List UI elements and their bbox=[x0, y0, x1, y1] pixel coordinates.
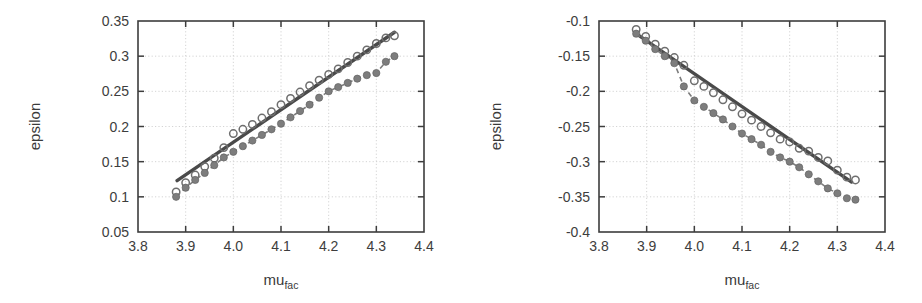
x-tick-label: 4.2 bbox=[319, 238, 339, 254]
y-tick-label: 0.05 bbox=[102, 224, 129, 240]
x-tick-label: 4.0 bbox=[685, 238, 705, 254]
data-point bbox=[363, 72, 370, 79]
data-point bbox=[306, 101, 313, 108]
data-point bbox=[786, 158, 793, 165]
y-tick-label: -0.1 bbox=[566, 13, 590, 29]
data-point bbox=[729, 103, 736, 110]
data-point bbox=[834, 190, 841, 197]
data-point bbox=[852, 176, 859, 183]
data-point bbox=[382, 58, 389, 65]
data-point bbox=[700, 83, 707, 90]
data-point bbox=[296, 107, 303, 114]
data-point bbox=[815, 178, 822, 185]
axis-ticks: 3.83.94.04.14.24.34.40.050.10.150.20.250… bbox=[102, 13, 434, 254]
series-linear-fit bbox=[177, 32, 394, 180]
y-tick-label: -0.4 bbox=[566, 224, 590, 240]
data-point bbox=[776, 135, 783, 142]
x-axis-title: mufac bbox=[725, 271, 760, 291]
data-point bbox=[277, 120, 284, 127]
x-tick-label: 3.8 bbox=[128, 238, 148, 254]
data-point bbox=[287, 95, 294, 102]
data-point bbox=[642, 37, 649, 44]
plot-svg-right: 3.83.94.04.14.24.34.4-0.4-0.35-0.3-0.25-… bbox=[461, 0, 922, 303]
data-point bbox=[748, 136, 755, 143]
data-point bbox=[748, 116, 755, 123]
figure-root: 3.83.94.04.14.24.34.40.050.10.150.20.250… bbox=[0, 0, 922, 303]
data-point bbox=[230, 148, 237, 155]
data-point bbox=[296, 88, 303, 95]
x-axis-title: mufac bbox=[264, 271, 299, 291]
y-tick-label: -0.3 bbox=[566, 154, 590, 170]
y-tick-label: 0.3 bbox=[110, 48, 130, 64]
data-point bbox=[719, 96, 726, 103]
data-point bbox=[316, 94, 323, 101]
x-tick-label: 4.3 bbox=[367, 238, 387, 254]
data-point bbox=[757, 123, 764, 130]
data-point bbox=[757, 141, 764, 148]
series-open-circles bbox=[632, 26, 859, 184]
data-point bbox=[201, 169, 208, 176]
x-tick-label: 3.9 bbox=[637, 238, 657, 254]
data-point bbox=[671, 60, 678, 67]
chart-panel-left: 3.83.94.04.14.24.34.40.050.10.150.20.250… bbox=[0, 0, 461, 303]
data-point bbox=[852, 196, 859, 203]
chart-panel-right: 3.83.94.04.14.24.34.4-0.4-0.35-0.3-0.25-… bbox=[461, 0, 922, 303]
y-tick-label: -0.25 bbox=[558, 119, 590, 135]
data-point bbox=[843, 195, 850, 202]
data-point bbox=[738, 130, 745, 137]
x-axis-title-base: mu bbox=[264, 271, 285, 288]
y-axis-title: epsilon bbox=[487, 103, 504, 151]
data-point bbox=[220, 154, 227, 161]
y-tick-label: 0.2 bbox=[110, 119, 130, 135]
y-tick-label: -0.15 bbox=[558, 48, 590, 64]
data-point bbox=[767, 129, 774, 136]
data-point bbox=[239, 143, 246, 150]
data-point bbox=[277, 101, 284, 108]
y-tick-label: 0.35 bbox=[102, 13, 129, 29]
data-point bbox=[777, 154, 784, 161]
data-point bbox=[373, 69, 380, 76]
y-tick-label: 0.1 bbox=[110, 189, 130, 205]
x-tick-label: 4.4 bbox=[875, 238, 895, 254]
data-point bbox=[805, 171, 812, 178]
axis-ticks: 3.83.94.04.14.24.34.4-0.4-0.35-0.3-0.25-… bbox=[558, 13, 895, 254]
data-point bbox=[710, 110, 717, 117]
x-tick-label: 3.8 bbox=[589, 238, 609, 254]
data-point bbox=[258, 131, 265, 138]
x-tick-label: 3.9 bbox=[176, 238, 196, 254]
data-point bbox=[824, 157, 831, 164]
data-point bbox=[325, 88, 332, 95]
data-point bbox=[824, 185, 831, 192]
x-tick-label: 4.1 bbox=[732, 238, 752, 254]
data-point bbox=[796, 164, 803, 171]
x-tick-label: 4.1 bbox=[271, 238, 291, 254]
data-point bbox=[258, 114, 265, 121]
data-point bbox=[661, 53, 668, 60]
data-point bbox=[691, 97, 698, 104]
data-point bbox=[287, 114, 294, 121]
y-tick-label: -0.2 bbox=[566, 83, 590, 99]
data-point bbox=[249, 137, 256, 144]
data-point bbox=[719, 116, 726, 123]
x-tick-label: 4.2 bbox=[780, 238, 800, 254]
y-tick-label: 0.25 bbox=[102, 83, 129, 99]
data-point bbox=[268, 126, 275, 133]
data-point bbox=[700, 103, 707, 110]
data-point bbox=[729, 123, 736, 130]
data-point bbox=[192, 176, 199, 183]
data-point bbox=[344, 79, 351, 86]
x-tick-label: 4.4 bbox=[414, 238, 434, 254]
x-axis-title-subscript: fac bbox=[284, 279, 298, 291]
data-point bbox=[173, 193, 180, 200]
data-point bbox=[767, 148, 774, 155]
data-point bbox=[652, 46, 659, 53]
data-point bbox=[391, 53, 398, 60]
y-tick-label: -0.35 bbox=[558, 189, 590, 205]
data-point bbox=[239, 126, 246, 133]
y-axis-title: epsilon bbox=[26, 103, 43, 151]
x-axis-title-subscript: fac bbox=[745, 279, 759, 291]
data-point bbox=[354, 75, 361, 82]
data-point bbox=[182, 184, 189, 191]
x-axis-title-base: mu bbox=[725, 271, 746, 288]
data-point bbox=[249, 121, 256, 128]
